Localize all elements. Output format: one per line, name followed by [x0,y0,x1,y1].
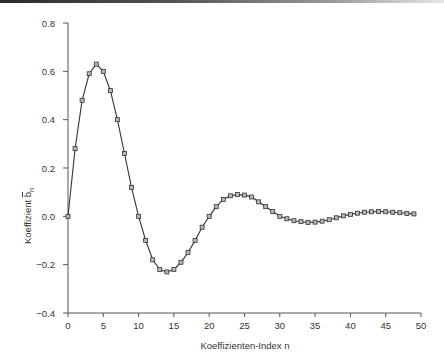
x-axis-title: Koeffizienten-Index n [200,340,289,351]
x-tick-label: 35 [310,320,321,331]
x-tick-label: 20 [204,320,215,331]
data-point-marker [101,69,105,73]
data-point-marker [130,185,134,189]
x-tick-label: 30 [275,320,286,331]
data-point-marker [144,239,148,243]
data-point-marker [221,197,225,201]
data-point-marker [334,216,338,220]
data-point-marker [271,210,275,214]
data-point-marker [264,205,268,209]
data-point-marker [320,219,324,223]
y-tick-label: 0.8 [42,18,55,29]
data-point-marker [87,72,91,76]
x-tick-label: 10 [133,320,144,331]
y-tick-label: 0.2 [42,163,55,174]
data-point-marker [398,211,402,215]
data-point-marker [207,214,211,218]
data-point-marker [137,214,141,218]
y-axis-title-subscript: n [28,188,35,192]
data-point-marker [214,205,218,209]
x-tick-label: 25 [239,320,250,331]
y-tick-label: −0.2 [36,259,55,270]
y-tick-label: −0.4 [36,308,55,319]
data-point-marker [355,211,359,215]
data-point-marker [228,194,232,198]
data-point-marker [179,260,183,264]
data-point-marker [278,214,282,218]
y-tick-label: 0.6 [42,66,55,77]
data-point-marker [200,225,204,229]
x-tick-label: 45 [380,320,391,331]
data-point-marker [80,98,84,102]
x-axis-ticks: 05101520253035404550 [65,313,426,331]
data-point-marker [193,239,197,243]
x-tick-label: 5 [101,320,106,331]
data-point-marker [165,270,169,274]
data-point-marker [122,152,126,156]
axes [68,23,421,313]
data-point-marker [235,193,239,197]
data-point-marker [313,220,317,224]
x-tick-label: 0 [65,320,70,331]
y-axis-title-text: Koeffizient [22,197,33,244]
data-point-marker [299,220,303,224]
data-point-marker [391,210,395,214]
data-point-marker [285,217,289,221]
data-point-marker [108,89,112,93]
y-axis-title: Koeffizient bn [22,188,35,244]
data-point-marker [377,210,381,214]
x-tick-label: 15 [169,320,180,331]
data-point-marker [384,210,388,214]
chart: 0.80.60.40.20.0−0.2−0.4 0510152025303540… [0,0,444,364]
data-point-marker [370,210,374,214]
data-point-marker [341,214,345,218]
data-point-marker [292,219,296,223]
data-point-marker [348,212,352,216]
data-point-marker [115,118,119,122]
data-point-marker [363,210,367,214]
data-point-marker [306,220,310,224]
data-point-marker [327,218,331,222]
y-tick-label: 0.4 [42,114,55,125]
data-point-marker [66,214,70,218]
data-point-marker [412,212,416,216]
data-point-marker [158,268,162,272]
data-point-marker [405,211,409,215]
data-point-marker [151,258,155,262]
data-point-marker [186,251,190,255]
data-point-marker [172,268,176,272]
series-line [68,64,414,272]
y-tick-label: 0.0 [42,211,55,222]
svg-text:Koeffizient bn: Koeffizient bn [22,188,35,244]
data-point-marker [257,200,261,204]
x-tick-label: 40 [345,320,356,331]
data-point-marker [94,62,98,66]
series-markers [66,62,416,274]
data-point-marker [73,147,77,151]
data-point-marker [250,195,254,199]
y-axis-ticks: 0.80.60.40.20.0−0.2−0.4 [36,18,68,319]
x-tick-label: 50 [416,320,427,331]
data-point-marker [243,193,247,197]
